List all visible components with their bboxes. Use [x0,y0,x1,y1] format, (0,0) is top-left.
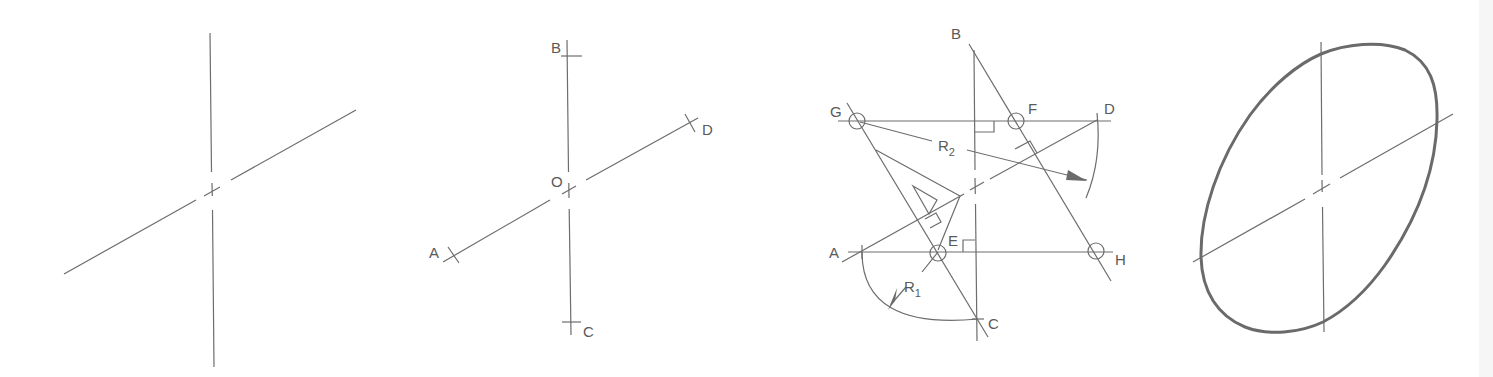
r2-arrowhead [1066,170,1087,181]
label-b: B [551,39,561,56]
label-c: C [988,315,999,332]
label-o: O [551,173,563,190]
axis-vertical-upper [1321,42,1322,175]
label-a: A [429,244,439,261]
vertical-axis-lower [213,210,215,367]
panel-step-3: B G F D R2 A E H R1 C [829,25,1126,341]
set-square-inner [913,186,937,214]
vertical-axis-upper [210,33,212,172]
axis-diagonal-lower [1193,199,1305,262]
construction-diagram: B O D A C [0,0,1493,377]
axis-ad-upper [990,120,1097,179]
label-c: C [583,323,594,340]
panel-step-4 [1193,42,1453,332]
tick-d [685,114,695,132]
label-e: E [948,232,958,249]
label-b: B [951,25,961,42]
axis-ad-mark [970,182,984,190]
label-f: F [1028,100,1037,117]
panel-step-2: B O D A C [429,39,713,340]
line-gc [847,103,988,337]
label-r1: R1 [904,278,921,299]
diagonal-axis-upper [231,110,356,180]
r2-leader-left [860,122,932,141]
axis-vertical-lower [1323,207,1325,332]
axis-ad-upper [586,118,698,180]
label-h: H [1115,251,1126,268]
label-r2: R2 [938,137,955,158]
label-g: G [830,103,842,120]
axis-bc-lower [569,209,571,335]
diagonal-axis-lower [64,200,196,274]
label-a: A [829,244,839,261]
axis-bc-upper [567,40,569,172]
right-angle-mark-set-square [925,213,941,228]
label-d: D [1104,100,1115,117]
label-d: D [702,121,713,138]
ellipse-outline [1201,44,1437,332]
right-angle-mark-top [975,121,994,132]
tick-a [448,247,459,263]
arc-r2 [1086,113,1098,198]
axis-ad-lower [443,200,550,262]
panel-step-1 [64,33,356,367]
axis-vertical-lower [976,204,978,341]
right-angle-mark-e [963,240,975,252]
